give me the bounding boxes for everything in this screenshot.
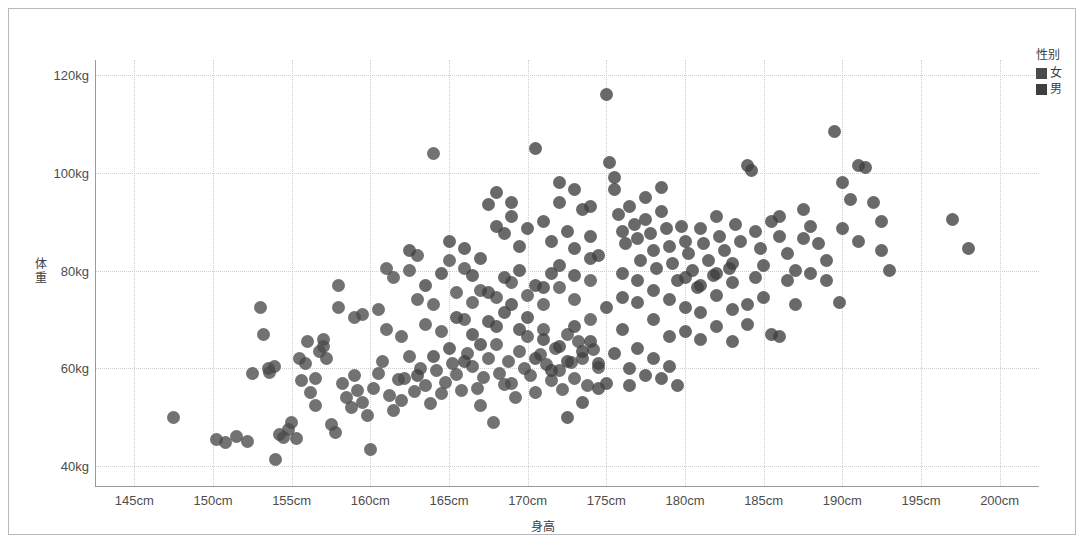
scatter-point[interactable] [513, 264, 526, 277]
scatter-point[interactable] [568, 242, 581, 255]
scatter-point[interactable] [553, 281, 566, 294]
scatter-point[interactable] [781, 274, 794, 287]
scatter-point[interactable] [773, 230, 786, 243]
scatter-point[interactable] [797, 232, 810, 245]
scatter-point[interactable] [710, 320, 723, 333]
scatter-point[interactable] [477, 371, 490, 384]
scatter-point[interactable] [466, 328, 479, 341]
scatter-point[interactable] [644, 227, 657, 240]
scatter-point[interactable] [741, 298, 754, 311]
scatter-point[interactable] [844, 193, 857, 206]
scatter-point[interactable] [773, 210, 786, 223]
scatter-point[interactable] [781, 247, 794, 260]
scatter-point[interactable] [741, 318, 754, 331]
scatter-point[interactable] [383, 389, 396, 402]
scatter-point[interactable] [592, 382, 605, 395]
scatter-point[interactable] [367, 382, 380, 395]
scatter-point[interactable] [568, 183, 581, 196]
scatter-point[interactable] [729, 218, 742, 231]
scatter-point[interactable] [553, 196, 566, 209]
scatter-point[interactable] [694, 306, 707, 319]
scatter-point[interactable] [600, 301, 613, 314]
scatter-point[interactable] [561, 225, 574, 238]
scatter-point[interactable] [246, 367, 259, 380]
scatter-point[interactable] [568, 269, 581, 282]
scatter-point[interactable] [254, 301, 267, 314]
scatter-point[interactable] [623, 362, 636, 375]
scatter-point[interactable] [317, 333, 330, 346]
scatter-point[interactable] [616, 291, 629, 304]
scatter-point[interactable] [828, 125, 841, 138]
scatter-point[interactable] [474, 252, 487, 265]
scatter-point[interactable] [647, 244, 660, 257]
scatter-point[interactable] [623, 200, 636, 213]
scatter-point[interactable] [710, 210, 723, 223]
scatter-point[interactable] [836, 176, 849, 189]
scatter-point[interactable] [474, 399, 487, 412]
scatter-point[interactable] [411, 293, 424, 306]
scatter-point[interactable] [584, 252, 597, 265]
scatter-point[interactable] [482, 198, 495, 211]
scatter-point[interactable] [765, 328, 778, 341]
scatter-point[interactable] [663, 330, 676, 343]
scatter-point[interactable] [666, 257, 679, 270]
scatter-point[interactable] [568, 320, 581, 333]
scatter-point[interactable] [320, 352, 333, 365]
scatter-point[interactable] [269, 453, 282, 466]
scatter-point[interactable] [962, 242, 975, 255]
scatter-point[interactable] [694, 279, 707, 292]
scatter-point[interactable] [875, 244, 888, 257]
scatter-point[interactable] [797, 203, 810, 216]
scatter-point[interactable] [241, 435, 254, 448]
scatter-point[interactable] [679, 325, 692, 338]
scatter-point[interactable] [537, 298, 550, 311]
scatter-point[interactable] [513, 345, 526, 358]
scatter-point[interactable] [568, 372, 581, 385]
scatter-point[interactable] [639, 213, 652, 226]
scatter-point[interactable] [576, 345, 589, 358]
scatter-point[interactable] [553, 176, 566, 189]
scatter-point[interactable] [655, 181, 668, 194]
scatter-point[interactable] [749, 225, 762, 238]
scatter-point[interactable] [521, 311, 534, 324]
scatter-point[interactable] [167, 411, 180, 424]
scatter-point[interactable] [364, 443, 377, 456]
scatter-point[interactable] [427, 298, 440, 311]
scatter-point[interactable] [529, 386, 542, 399]
scatter-point[interactable] [336, 377, 349, 390]
scatter-point[interactable] [852, 235, 865, 248]
scatter-point[interactable] [647, 352, 660, 365]
scatter-point[interactable] [726, 257, 739, 270]
scatter-point[interactable] [623, 379, 636, 392]
scatter-point[interactable] [836, 222, 849, 235]
scatter-point[interactable] [710, 267, 723, 280]
scatter-point[interactable] [660, 222, 673, 235]
scatter-point[interactable] [348, 311, 361, 324]
scatter-point[interactable] [545, 235, 558, 248]
scatter-point[interactable] [521, 222, 534, 235]
scatter-point[interactable] [647, 313, 660, 326]
scatter-point[interactable] [524, 369, 537, 382]
scatter-point[interactable] [537, 333, 550, 346]
scatter-point[interactable] [273, 428, 286, 441]
scatter-point[interactable] [361, 409, 374, 422]
scatter-point[interactable] [458, 355, 471, 368]
scatter-point[interactable] [726, 303, 739, 316]
scatter-point[interactable] [561, 355, 574, 368]
scatter-point[interactable] [616, 323, 629, 336]
scatter-point[interactable] [487, 416, 500, 429]
scatter-point[interactable] [754, 242, 767, 255]
scatter-point[interactable] [600, 88, 613, 101]
scatter-point[interactable] [430, 364, 443, 377]
scatter-point[interactable] [875, 215, 888, 228]
scatter-point[interactable] [694, 222, 707, 235]
scatter-point[interactable] [675, 220, 688, 233]
scatter-point[interactable] [655, 205, 668, 218]
scatter-point[interactable] [398, 372, 411, 385]
scatter-point[interactable] [295, 374, 308, 387]
scatter-point[interactable] [498, 227, 511, 240]
scatter-point[interactable] [424, 397, 437, 410]
scatter-point[interactable] [529, 142, 542, 155]
scatter-point[interactable] [262, 362, 275, 375]
scatter-point[interactable] [757, 291, 770, 304]
